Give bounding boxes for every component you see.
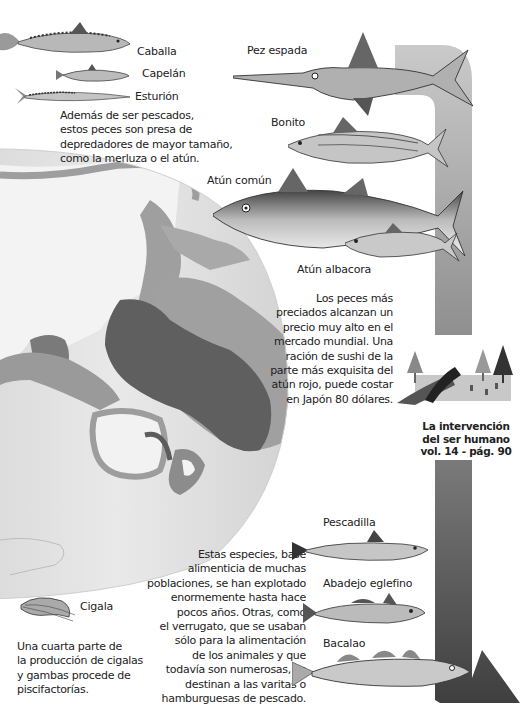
cigala-illustration	[17, 593, 77, 623]
fish-label-abadejo-eglefino: Abadejo eglefino	[323, 577, 412, 590]
fish-abadejo-illustration	[303, 591, 428, 633]
deforestation-illustration	[395, 345, 515, 407]
fish-capelan-illustration	[56, 64, 131, 86]
caption-fish-farming: Una cuarta parte de la producción de cig…	[17, 640, 167, 698]
fish-label-esturion: Esturión	[135, 90, 179, 103]
caption-valuable-fish: Los peces más preciados alcanzan un prec…	[250, 292, 393, 407]
fish-label-caballa: Caballa	[137, 45, 177, 58]
fish-pez-espada-illustration	[233, 28, 473, 118]
fish-pescadilla-illustration	[292, 530, 432, 572]
caption-small-fish: Además de ser pescados, estos peces son …	[60, 109, 260, 167]
cross-reference-link[interactable]: La intervención del ser humano vol. 14 -…	[410, 420, 522, 458]
fish-label-atun-albacora: Atún albacora	[297, 263, 371, 276]
fish-label-pescadilla: Pescadilla	[323, 516, 375, 529]
fish-caballa-illustration	[0, 22, 135, 60]
fish-label-capelan: Capelán	[142, 67, 186, 80]
shellfish-label-cigala: Cigala	[80, 600, 113, 613]
fish-bacalao-illustration	[292, 642, 472, 700]
fish-atun-albacora-illustration	[345, 221, 460, 265]
fish-esturion-illustration	[15, 86, 130, 108]
